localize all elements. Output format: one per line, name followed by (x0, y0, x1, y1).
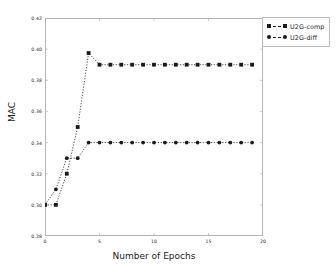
data-point-marker (98, 63, 102, 67)
legend-label: U2G-comp (290, 23, 325, 31)
data-point-marker (250, 141, 254, 145)
data-point-marker (207, 63, 211, 67)
data-point-marker (76, 125, 80, 129)
data-point-marker (185, 63, 189, 67)
legend-item-u2g-comp[interactable]: U2G-comp (266, 21, 325, 32)
data-point-marker (196, 141, 200, 145)
chart-legend: U2G-comp U2G-diff (262, 17, 330, 47)
x-tick-label: 5 (98, 239, 101, 244)
series-u2g-comp (45, 51, 254, 207)
data-point-marker (239, 63, 243, 67)
y-tick-label: 0.34 (31, 140, 42, 145)
y-tick-label: 0.42 (31, 16, 42, 21)
data-point-marker (109, 63, 113, 67)
data-point-marker (228, 63, 232, 67)
data-point-marker (119, 63, 123, 67)
legend-label: U2G-diff (290, 34, 317, 42)
data-point-marker (76, 156, 80, 160)
legend-swatch-circle-icon (266, 33, 288, 42)
data-point-marker (98, 141, 102, 145)
data-point-marker (130, 141, 134, 145)
data-point-marker (65, 172, 69, 176)
data-point-marker (163, 141, 167, 145)
data-point-marker (54, 187, 58, 191)
data-point-marker (87, 141, 91, 145)
x-tick-label: 10 (151, 239, 157, 244)
data-point-marker (109, 141, 113, 145)
x-axis-label: Number of Epochs (45, 251, 263, 261)
series-line (45, 53, 252, 205)
chart-figure: 0.280.300.320.340.360.380.400.42 0510152… (0, 0, 336, 275)
data-point-marker (152, 63, 156, 67)
data-point-marker (54, 203, 58, 207)
data-point-marker (174, 63, 178, 67)
data-point-marker (250, 63, 254, 67)
data-point-marker (141, 141, 145, 145)
data-point-marker (174, 141, 178, 145)
legend-swatch-square-icon (266, 22, 288, 31)
data-point-marker (218, 63, 222, 67)
y-tick-label: 0.36 (31, 109, 42, 114)
data-point-marker (119, 141, 123, 145)
y-axis-label: MAC (7, 82, 17, 142)
data-point-marker (65, 156, 69, 160)
legend-item-u2g-diff[interactable]: U2G-diff (266, 32, 325, 43)
y-tick-label: 0.28 (31, 234, 42, 239)
data-point-marker (163, 63, 167, 67)
x-tick-label: 20 (260, 239, 266, 244)
y-tick-label: 0.38 (31, 78, 42, 83)
series-u2g-diff (45, 141, 254, 207)
data-point-marker (239, 141, 243, 145)
x-tick-label: 15 (205, 239, 211, 244)
y-tick-label: 0.40 (31, 47, 42, 52)
data-point-marker (87, 51, 91, 55)
data-point-marker (185, 141, 189, 145)
y-tick-label: 0.32 (31, 171, 42, 176)
data-point-marker (207, 141, 211, 145)
x-tick-label: 0 (43, 239, 46, 244)
plot-data-area (45, 18, 263, 236)
data-point-marker (228, 141, 232, 145)
data-point-marker (196, 63, 200, 67)
y-tick-label: 0.30 (31, 202, 42, 207)
series-line (45, 143, 252, 205)
data-point-marker (218, 141, 222, 145)
data-point-marker (130, 63, 134, 67)
data-point-marker (152, 141, 156, 145)
data-point-marker (141, 63, 145, 67)
